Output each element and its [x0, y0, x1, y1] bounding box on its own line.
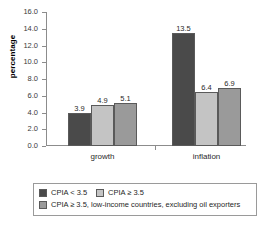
bar-value-label: 4.9 [97, 96, 107, 105]
y-axis-tick-label: 10.0 [23, 57, 38, 66]
y-axis-tick-label: 0.0 [28, 141, 38, 150]
y-axis-tick: 16.0 [42, 12, 46, 13]
bar: 4.9 [91, 105, 114, 146]
y-axis-tick: 4.0 [42, 113, 46, 114]
bar-value-label: 13.5 [176, 24, 191, 33]
legend-label: CPIA ≥ 3.5, low-income countries, exclud… [51, 201, 240, 209]
chart-legend: CPIA < 3.5CPIA ≥ 3.5 CPIA ≥ 3.5, low-inc… [33, 183, 257, 216]
bar: 6.9 [218, 88, 241, 146]
legend-label: CPIA < 3.5 [51, 189, 87, 197]
y-axis-tick: 12.0 [42, 46, 46, 47]
legend-item[interactable]: CPIA ≥ 3.5 [96, 189, 144, 197]
x-axis-category-label: inflation [193, 152, 221, 161]
legend-row: CPIA < 3.5CPIA ≥ 3.5 [39, 187, 251, 199]
y-axis-tick-label: 14.0 [23, 24, 38, 33]
x-axis-category-label: growth [90, 152, 114, 161]
legend-row: CPIA ≥ 3.5, low-income countries, exclud… [39, 199, 251, 211]
y-axis-tick-label: 6.0 [28, 91, 38, 100]
y-axis-tick: 10.0 [42, 62, 46, 63]
bar-group: 13.56.46.9inflation [172, 12, 241, 146]
bar: 3.9 [68, 113, 91, 146]
y-axis-tick-label: 2.0 [28, 124, 38, 133]
y-axis-tick: 8.0 [42, 79, 46, 80]
y-axis-tick: 2.0 [42, 129, 46, 130]
bar-value-label: 6.4 [201, 83, 211, 92]
bar-group: 3.94.95.1growth [68, 12, 137, 146]
bar-value-label: 3.9 [74, 104, 84, 113]
legend-swatch [39, 201, 47, 209]
bar-value-label: 5.1 [120, 94, 130, 103]
plot-area: 0.02.04.06.08.010.012.014.016.0 3.94.95.… [46, 12, 246, 146]
y-axis-tick-label: 16.0 [23, 7, 38, 16]
bar: 6.4 [195, 92, 218, 146]
legend-label: CPIA ≥ 3.5 [108, 189, 144, 197]
y-axis-tick-label: 12.0 [23, 41, 38, 50]
legend-swatch [96, 189, 104, 197]
y-axis-tick-label: 8.0 [28, 74, 38, 83]
y-axis-title: percentage [8, 21, 17, 93]
bar: 13.5 [172, 33, 195, 146]
y-axis-tick: 0.0 [42, 146, 46, 147]
bar-chart: percentage 0.02.04.06.08.010.012.014.016… [0, 0, 269, 228]
legend-swatch [39, 189, 47, 197]
legend-item[interactable]: CPIA < 3.5 [39, 189, 87, 197]
legend-item[interactable]: CPIA ≥ 3.5, low-income countries, exclud… [39, 201, 240, 209]
y-axis-tick: 6.0 [42, 96, 46, 97]
y-axis-tick-label: 4.0 [28, 108, 38, 117]
x-axis-tick [155, 146, 156, 150]
y-axis-tick: 14.0 [42, 29, 46, 30]
y-axis-line [46, 12, 47, 146]
bar-value-label: 6.9 [224, 79, 234, 88]
bar: 5.1 [114, 103, 137, 146]
